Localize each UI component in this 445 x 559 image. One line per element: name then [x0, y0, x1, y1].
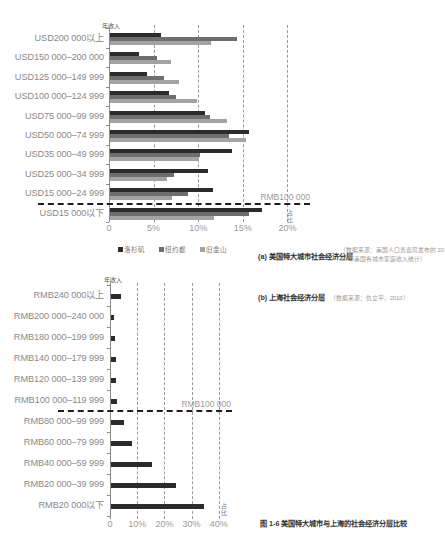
legend-swatch-icon — [118, 247, 123, 252]
axis-tick — [106, 67, 109, 68]
axis-tick — [107, 390, 110, 391]
bar-上海 — [111, 336, 115, 341]
legend-item: 纽约都 — [159, 244, 186, 254]
x-tick-label: 5% — [147, 223, 160, 233]
axis-tick — [107, 516, 110, 517]
bar-上海 — [111, 378, 116, 383]
x-axis-title: 占比 — [286, 210, 293, 224]
legend-item: 洛杉矶 — [118, 244, 145, 254]
axis-tick — [106, 48, 109, 49]
bar-上海 — [111, 483, 176, 488]
axis-tick — [107, 369, 110, 370]
category-label: USD50 000–74 999 — [0, 129, 104, 141]
category-label: RMB180 000–199 999 — [0, 331, 104, 343]
category-label: USD25 000–34 999 — [0, 168, 104, 180]
caption-b-title: (b) 上海社会经济分层 — [258, 293, 325, 302]
axis-tick — [106, 125, 109, 126]
category-label: USD15 000–24 999 — [0, 187, 104, 199]
category-label: RMB120 000–139 999 — [0, 373, 104, 385]
x-tick-label: 30% — [183, 519, 201, 529]
bar-上海 — [111, 441, 132, 446]
x-tick-label: 20% — [278, 223, 296, 233]
x-tick-label: 40% — [210, 519, 228, 529]
category-label: RMB200 000–240 000 — [0, 310, 104, 322]
threshold-label: RMB100 000 — [181, 399, 231, 409]
legend-swatch-icon — [159, 247, 164, 252]
category-label: USD15 000以下 — [0, 207, 104, 219]
x-tick-label: 15% — [234, 223, 252, 233]
y-axis-title: 年收入 — [102, 21, 120, 30]
bar-上海 — [111, 462, 152, 467]
category-label: RMB240 000以上 — [0, 289, 104, 301]
bar-旧金山 — [110, 99, 197, 103]
category-label: USD125 000–149 999 — [0, 71, 104, 83]
bar-上海 — [111, 357, 116, 362]
caption-b: (b) 上海社会经济分层 （数据来源：仇立平，2010） — [258, 286, 409, 304]
bar-旧金山 — [110, 119, 227, 123]
legend-swatch-icon — [200, 247, 205, 252]
y-axis-title: 年收入 — [104, 275, 122, 284]
x-axis-title: 占比 — [220, 503, 227, 517]
category-label: USD75 000–99 999 — [0, 110, 104, 122]
bar-旧金山 — [110, 60, 171, 64]
bar-旧金山 — [110, 41, 211, 45]
axis-tick — [106, 164, 109, 165]
bar-上海 — [111, 504, 204, 509]
bar-旧金山 — [110, 196, 172, 200]
axis-tick — [106, 145, 109, 146]
threshold-label: RMB100 000 — [260, 192, 310, 202]
axis-tick — [107, 474, 110, 475]
axis-tick — [107, 348, 110, 349]
category-label: RMB20 000以下 — [0, 499, 104, 511]
category-label: RMB80 000–99 999 — [0, 415, 104, 427]
bar-旧金山 — [110, 80, 179, 84]
legend-item: 旧金山 — [200, 244, 227, 254]
axis-tick — [107, 306, 110, 307]
bar-旧金山 — [110, 138, 246, 142]
category-label: RMB60 000–79 999 — [0, 436, 104, 448]
legend-label: 洛杉矶 — [124, 244, 145, 254]
bar-上海 — [111, 315, 114, 320]
axis-tick — [107, 327, 110, 328]
category-label: USD100 000–124 999 — [0, 90, 104, 102]
category-label: USD200 000以上 — [0, 32, 104, 44]
bar-上海 — [111, 399, 117, 404]
caption-b-source: （数据来源：仇立平，2010） — [330, 295, 409, 301]
x-tick-label: 0 — [106, 223, 111, 233]
category-label: RMB140 000–179 999 — [0, 352, 104, 364]
bar-旧金山 — [110, 157, 199, 161]
axis-tick — [106, 106, 109, 107]
x-tick-label: 0 — [107, 519, 112, 529]
axis-tick — [107, 432, 110, 433]
axis-tick — [107, 495, 110, 496]
category-label: RMB100 000–119 999 — [0, 394, 104, 406]
bar-上海 — [111, 420, 124, 425]
bar-旧金山 — [110, 177, 167, 181]
x-tick-label: 20% — [155, 519, 173, 529]
axis-tick — [106, 28, 109, 29]
gridline — [243, 25, 244, 222]
legend: 洛杉矶纽约都旧金山 — [118, 244, 227, 254]
x-tick-label: 10% — [189, 223, 207, 233]
threshold-line — [58, 410, 232, 412]
axis-tick — [106, 184, 109, 185]
threshold-line — [38, 203, 310, 205]
category-label: USD150 000–200 000 — [0, 51, 104, 63]
axis-tick — [106, 222, 109, 223]
figure-caption: 图 1-6 美国特大城市与上海的社会经济分层比较 — [260, 518, 407, 528]
axis-tick — [106, 87, 109, 88]
category-label: RMB20 000–39 999 — [0, 478, 104, 490]
caption-a-title: (a) 美国特大城市社会经济分层 — [258, 252, 353, 261]
legend-label: 纽约都 — [165, 244, 186, 254]
bar-旧金山 — [110, 216, 214, 220]
category-label: USD35 000–49 999 — [0, 148, 104, 160]
gridline — [198, 25, 199, 222]
axis-tick — [107, 285, 110, 286]
bar-上海 — [111, 294, 121, 299]
legend-label: 旧金山 — [206, 244, 227, 254]
x-tick-label: 10% — [128, 519, 146, 529]
caption-a: (a) 美国特大城市社会经济分层 — [258, 245, 353, 263]
caption-a-source: （数据来源：美国人口普查局发布的 2010 年美国各城市家庭收入统计） — [340, 246, 445, 264]
category-label: RMB40 000–59 999 — [0, 457, 104, 469]
axis-tick — [107, 453, 110, 454]
